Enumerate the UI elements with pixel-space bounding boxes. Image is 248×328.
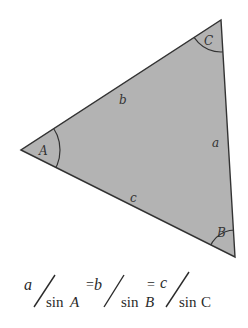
- formula-numerator-a: a: [24, 276, 32, 293]
- side-label-a: a: [212, 136, 219, 150]
- formula-equals-2: =: [147, 277, 155, 292]
- formula-denominator-fn-1: sin: [46, 294, 64, 310]
- vertex-label-b: B: [216, 226, 226, 240]
- formula-denominator-var-2: B: [145, 294, 154, 310]
- formula-numerator-c: c: [160, 274, 167, 291]
- formula-denominator-var-1: A: [69, 294, 80, 310]
- formula-numerator-b: b: [94, 276, 102, 293]
- law-of-sines-diagram: A B C a b c a sin A = b sin B = c sin C: [0, 0, 248, 328]
- formula-denominator-fn-3: sin: [179, 294, 197, 310]
- formula-denominator-fn-2: sin: [121, 294, 139, 310]
- side-label-b: b: [119, 93, 127, 107]
- formula-denominator-var-3: C: [201, 294, 211, 310]
- law-of-sines-formula: a sin A = b sin B = c sin C: [24, 272, 211, 310]
- formula-equals-1: =: [86, 277, 94, 292]
- side-label-c: c: [130, 191, 137, 205]
- triangle: [21, 20, 235, 257]
- vertex-label-c: C: [204, 34, 213, 48]
- vertex-label-a: A: [38, 144, 48, 158]
